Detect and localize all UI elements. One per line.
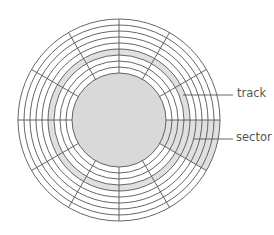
hub-disc bbox=[72, 73, 166, 167]
track-label: track bbox=[237, 88, 266, 100]
disk-diagram bbox=[0, 0, 274, 235]
sector-label: sector bbox=[236, 132, 272, 144]
